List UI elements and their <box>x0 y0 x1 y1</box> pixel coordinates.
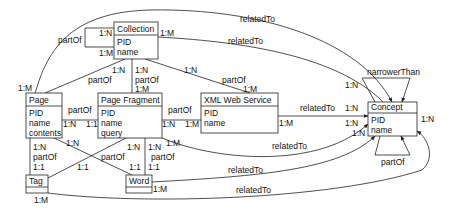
card-page-tag-a: 1:N <box>33 142 46 152</box>
entity-concept-title: Concept <box>371 102 403 112</box>
label-fragment-tag: partOf <box>101 152 125 162</box>
entity-page-fragment-attr: name <box>101 118 123 128</box>
card-fragment-service-a: 1:N <box>162 119 175 129</box>
label-concept-narrower: narrowerThan <box>367 67 420 77</box>
entity-page-fragment[interactable]: Page Fragment PID name query <box>98 93 162 138</box>
label-fragment-word: partOf <box>151 152 175 162</box>
entity-word-title: Word <box>129 176 149 186</box>
card-fragment-concept-b: 1:N <box>345 118 358 128</box>
edge-page-concept <box>33 10 392 102</box>
label-concept-partof: partOf <box>381 157 405 167</box>
card-page-top: 1:M <box>18 83 32 93</box>
card-fragment-word-a: 1:N <box>148 142 161 152</box>
card-fragment-service-b: 1:M <box>185 119 199 129</box>
edge-word-concept <box>152 136 375 182</box>
card-page-fragment-b: 1:1 <box>86 119 98 129</box>
entity-collection[interactable]: Collection PID name <box>114 22 158 59</box>
er-diagram: relatedTo relatedTo 1:M 1:N 1:M partOf 1… <box>0 0 452 217</box>
card-tag-concept-a: 1:M <box>34 195 48 205</box>
entity-xml-web-service[interactable]: XML Web Service PID name <box>201 93 278 133</box>
entity-page-attr: contents <box>29 128 61 138</box>
label-page-collection: partOf <box>88 75 112 85</box>
entity-xml-web-service-title: XML Web Service <box>204 95 272 105</box>
entity-collection-attr: name <box>117 47 139 57</box>
card-fragment-collection-top: 1:N <box>135 65 148 75</box>
card-collection-self-a: 1:N <box>99 28 112 38</box>
label-page-fragment: partOf <box>68 105 92 115</box>
card-service-concept-a: 1:M <box>279 118 293 128</box>
card-fragment-word-b: 1:1 <box>148 162 160 172</box>
card-page-fragment-a: 1:N <box>63 119 76 129</box>
label-service-concept: relatedTo <box>300 103 335 113</box>
card-collection-right: 1:M <box>160 28 174 38</box>
entity-collection-attr: PID <box>117 37 131 47</box>
card-fragment-collection-bottom: 1:M <box>135 84 149 94</box>
card-service-concept-b: 1:N <box>345 103 358 113</box>
entity-collection-title: Collection <box>117 24 155 34</box>
label-collection-concept: relatedTo <box>228 36 263 46</box>
card-fragment-tag-b: 1:1 <box>129 162 141 172</box>
card-page-word-b: 1:1 <box>77 162 89 172</box>
card-page-word-a: 1:N <box>66 138 79 148</box>
label-fragment-service: partOf <box>168 105 192 115</box>
entity-concept[interactable]: Concept PID name <box>368 102 417 136</box>
entity-tag[interactable]: Tag <box>26 175 48 193</box>
card-service-collection-bottom: 1:M <box>243 84 257 94</box>
card-fragment-tag-a: 1:N <box>127 142 140 152</box>
label-page-concept: relatedTo <box>240 14 275 24</box>
edge-concept-partof <box>375 136 410 155</box>
card-concept-top: 1:N <box>345 80 358 90</box>
label-fragment-concept: relatedTo <box>272 141 307 151</box>
entity-page-attr: PID <box>29 108 43 118</box>
card-collection-self-b: 1:M <box>99 48 113 58</box>
card-word: 1:M <box>153 184 167 194</box>
label-tag-concept: relatedTo <box>236 185 271 195</box>
card-page-collection-top: 1:N <box>112 65 125 75</box>
entity-xml-web-service-attr: name <box>204 118 226 128</box>
entity-page-fragment-attr: PID <box>101 108 115 118</box>
label-collection-self: partOf <box>58 35 82 45</box>
label-word-concept: relatedTo <box>228 165 263 175</box>
entity-page-title: Page <box>29 95 49 105</box>
card-fragment-word-c: 1:M <box>166 138 180 148</box>
card-word-concept-b: 1:N <box>352 128 365 138</box>
entity-tag-title: Tag <box>29 176 43 186</box>
card-page-tag-b: 1:1 <box>33 162 45 172</box>
label-page-tag: partOf <box>33 152 57 162</box>
card-service-collection-top: 1:N <box>184 65 197 75</box>
entity-page-fragment-title: Page Fragment <box>101 95 160 105</box>
entity-page-attr: name <box>29 118 51 128</box>
entity-page-fragment-attr: query <box>101 128 123 138</box>
entity-concept-attr: PID <box>371 115 385 125</box>
entity-word[interactable]: Word <box>126 175 152 193</box>
entity-xml-web-service-attr: PID <box>204 108 218 118</box>
card-tag-concept-b: 1:N <box>421 114 434 124</box>
entity-page[interactable]: Page PID name contents <box>26 93 62 138</box>
entity-concept-attr: name <box>371 125 393 135</box>
